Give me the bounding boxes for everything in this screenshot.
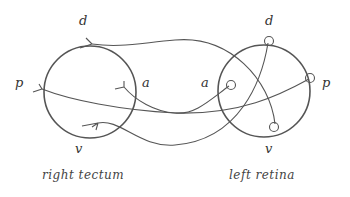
retina-label-d: d bbox=[265, 14, 273, 27]
axon-d-to-v bbox=[98, 43, 268, 145]
tectum-label-p: p bbox=[15, 76, 23, 89]
retina-label-p: p bbox=[322, 76, 330, 89]
tectum-label-a: a bbox=[142, 76, 150, 89]
tectum-label-v: v bbox=[75, 142, 82, 155]
tectum-label-d: d bbox=[79, 14, 87, 27]
axon-v-to-d bbox=[92, 40, 275, 124]
retina-label-a: a bbox=[201, 76, 209, 89]
retina-caption: left retina bbox=[229, 168, 295, 182]
axon-p-to-p bbox=[42, 79, 309, 113]
tectum-caption: right tectum bbox=[42, 168, 124, 182]
axon-a-to-a bbox=[124, 86, 229, 113]
retina-circle bbox=[218, 45, 310, 137]
retina-label-v: v bbox=[265, 142, 272, 155]
